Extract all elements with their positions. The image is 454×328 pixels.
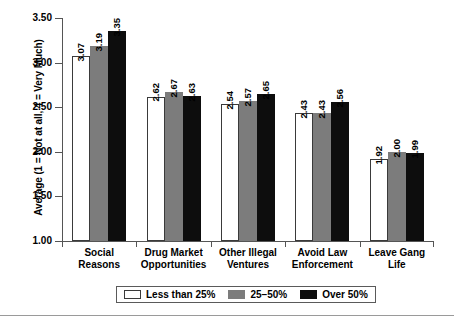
- bar-value-label: 1.92: [373, 146, 383, 165]
- bar-value-label: 2.56: [335, 89, 345, 108]
- x-axis-line: [62, 241, 434, 242]
- bar-4-2: [313, 113, 331, 241]
- bar-2-2: [165, 92, 183, 241]
- bar-5-2: [388, 152, 406, 241]
- bar-value-label: 2.54: [225, 91, 235, 110]
- y-tick-label: 1.50: [12, 191, 52, 201]
- bar-3-1: [221, 104, 239, 241]
- y-tick-mark: [55, 196, 62, 197]
- legend-swatch-icon: [228, 290, 245, 299]
- legend-item: Less than 25%: [124, 289, 215, 300]
- y-tick-mark: [55, 152, 62, 153]
- y-tick-mark: [55, 18, 62, 19]
- legend-item-label: Less than 25%: [146, 289, 215, 300]
- bar-value-label: 2.43: [317, 100, 327, 119]
- legend-item-label: 25–50%: [250, 289, 287, 300]
- y-tick-mark: [55, 63, 62, 64]
- bar-4-3: [331, 102, 349, 241]
- legend-swatch-icon: [300, 290, 317, 299]
- y-axis-title: Average (1 = Not at all, 4 = Very Much): [33, 8, 44, 248]
- y-tick-label: 2.50: [12, 102, 52, 112]
- chart-legend: Less than 25%25–50%Over 50%: [116, 286, 376, 303]
- y-tick-label: 2.00: [12, 147, 52, 157]
- bottom-divider: [0, 315, 454, 316]
- x-category-label-line: Leave Gang: [342, 247, 452, 259]
- bar-5-1: [370, 159, 388, 241]
- bar-1-1: [72, 56, 90, 241]
- legend-item-label: Over 50%: [322, 289, 368, 300]
- bar-chart-figure: Average (1 = Not at all, 4 = Very Much) …: [0, 0, 454, 328]
- bar-value-label: 2.62: [150, 83, 160, 102]
- y-tick-label: 3.00: [12, 58, 52, 68]
- bar-value-label: 3.35: [112, 18, 122, 37]
- x-category-label-line: Life: [342, 259, 452, 271]
- bar-1-3: [108, 31, 126, 241]
- bar-4-1: [295, 113, 313, 241]
- legend-swatch-icon: [124, 290, 141, 299]
- bar-5-3: [406, 153, 424, 241]
- bar-value-label: 2.57: [243, 88, 253, 107]
- bar-value-label: 2.65: [261, 81, 271, 100]
- bar-value-label: 1.99: [409, 140, 419, 159]
- legend-item: 25–50%: [228, 289, 287, 300]
- legend-item: Over 50%: [300, 289, 368, 300]
- bar-value-label: 2.67: [168, 79, 178, 98]
- bar-2-3: [183, 96, 201, 241]
- x-category-label: Leave GangLife: [342, 247, 452, 270]
- bar-value-label: 3.07: [76, 43, 86, 62]
- bar-value-label: 2.43: [299, 100, 309, 119]
- bar-value-label: 3.19: [94, 33, 104, 52]
- bar-value-label: 2.63: [186, 83, 196, 102]
- plot-area: 3.073.193.352.622.672.632.542.572.652.43…: [62, 18, 434, 241]
- y-tick-label: 3.50: [12, 13, 52, 23]
- bar-1-2: [90, 46, 108, 241]
- y-tick-label: 1.00: [12, 236, 52, 246]
- y-tick-mark: [55, 107, 62, 108]
- bar-3-2: [239, 101, 257, 241]
- bar-2-1: [147, 97, 165, 242]
- bar-value-label: 2.00: [391, 139, 401, 158]
- bar-3-3: [257, 94, 275, 241]
- y-tick-mark: [55, 241, 62, 242]
